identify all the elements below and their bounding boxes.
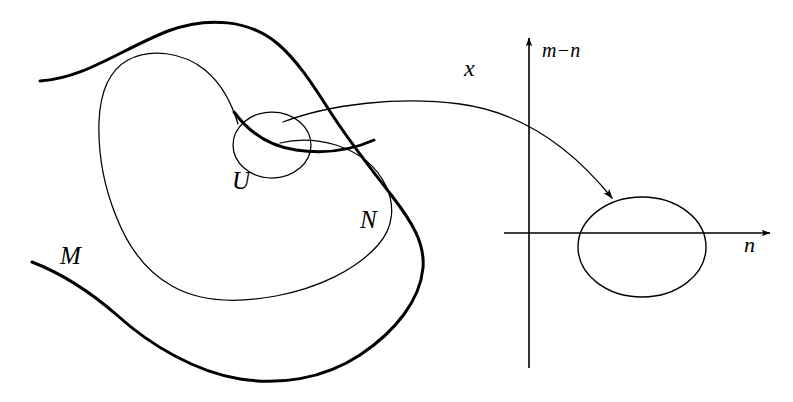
target-ellipse bbox=[578, 197, 706, 297]
outer-manifold-boundary bbox=[32, 22, 423, 381]
horizontal-axis-label: n bbox=[744, 234, 755, 256]
neighborhood-label: U bbox=[232, 168, 250, 193]
manifold-chart-figure: M N U x n m−n bbox=[0, 0, 793, 402]
chart-map-label: x bbox=[464, 56, 475, 80]
vertical-axis-label: m−n bbox=[542, 40, 581, 60]
diagram-canvas bbox=[0, 0, 793, 402]
submanifold-label: N bbox=[360, 207, 377, 232]
outer-manifold-label: M bbox=[60, 243, 81, 268]
